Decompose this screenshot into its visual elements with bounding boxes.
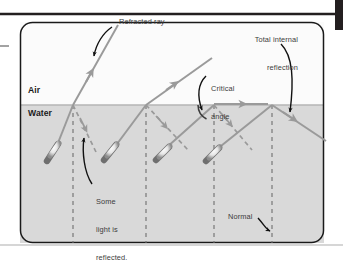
- critical-angle-line-1: Critical: [211, 84, 234, 93]
- some-light-line-3: reflected.: [96, 253, 127, 262]
- normal-label: Normal: [228, 212, 252, 221]
- air-label: Air: [28, 86, 40, 95]
- some-light-reflected-label: Some light is reflected.: [96, 179, 127, 264]
- critical-angle-line-2: angle: [211, 112, 234, 121]
- some-light-line-1: Some: [96, 197, 127, 206]
- refracted-ray-label: Refracted ray: [119, 17, 165, 26]
- critical-angle-label: Critical angle: [211, 66, 234, 140]
- right-marker-bar: [335, 0, 343, 30]
- tir-label-line-1: Total internal: [210, 35, 298, 44]
- some-light-line-2: light is: [96, 225, 127, 234]
- water-label: Water: [28, 109, 52, 118]
